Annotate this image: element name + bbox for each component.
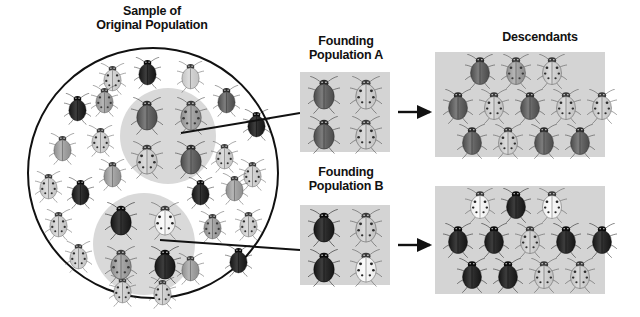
beetle-icon	[91, 85, 118, 117]
beetle-icon	[537, 54, 567, 89]
beetle-icon	[537, 188, 567, 223]
beetle-icon	[493, 258, 523, 293]
beetle-icon	[177, 61, 204, 93]
beetle-icon	[350, 76, 382, 114]
beetle-icon	[225, 245, 252, 277]
beetle-icon	[308, 249, 340, 287]
beetle-icon	[149, 202, 181, 240]
beetle-icon	[131, 141, 163, 179]
title-founding-population-a: Founding Population A	[296, 34, 396, 62]
beetle-icon	[350, 116, 382, 154]
beetle-icon	[199, 211, 226, 243]
beetle-icon	[465, 54, 495, 89]
beetle-icon	[64, 93, 91, 125]
beetle-icon	[529, 124, 559, 159]
page-title-original-population: Sample of Original Population	[62, 4, 242, 32]
beetle-icon	[479, 223, 509, 258]
beetle-icon	[565, 124, 595, 159]
founding-population-b-panel	[300, 205, 390, 285]
beetle-icon	[350, 209, 382, 247]
beetle-icon	[515, 89, 545, 124]
beetle-icon	[457, 124, 487, 159]
beetle-icon	[35, 171, 62, 203]
beetle-icon	[551, 89, 581, 124]
beetle-icon	[177, 253, 204, 285]
beetle-icon	[45, 209, 72, 241]
beetle-icon	[308, 76, 340, 114]
founding-population-a-panel	[300, 72, 390, 152]
beetle-icon	[175, 141, 207, 179]
beetle-icon	[501, 188, 531, 223]
beetle-icon	[65, 241, 92, 273]
descendants-a-panel	[435, 52, 605, 157]
beetle-icon	[67, 177, 94, 209]
beetle-icon	[457, 258, 487, 293]
beetle-icon	[308, 209, 340, 247]
beetle-icon	[443, 223, 473, 258]
beetle-icon	[49, 133, 76, 165]
beetle-icon	[308, 116, 340, 154]
beetle-icon	[565, 258, 595, 293]
title-founding-population-b: Founding Population B	[296, 165, 396, 193]
beetle-icon	[465, 188, 495, 223]
beetle-icon	[213, 85, 240, 117]
beetle-icon	[87, 125, 114, 157]
beetle-icon	[493, 124, 523, 159]
beetle-icon	[501, 54, 531, 89]
beetle-icon	[134, 57, 161, 89]
beetle-icon	[105, 202, 137, 240]
beetle-icon	[175, 97, 207, 135]
original-population-circle	[27, 47, 279, 299]
beetle-icon	[243, 109, 270, 141]
beetle-icon	[587, 223, 617, 258]
beetle-icon	[443, 89, 473, 124]
beetle-icon	[529, 258, 559, 293]
beetle-icon	[131, 97, 163, 135]
beetle-icon	[479, 89, 509, 124]
beetle-icon	[350, 249, 382, 287]
beetle-icon	[515, 223, 545, 258]
beetle-icon	[99, 159, 126, 191]
beetle-icon	[235, 209, 262, 241]
beetle-icon	[187, 177, 214, 209]
beetle-icon	[221, 173, 248, 205]
beetle-icon	[211, 141, 238, 173]
beetle-icon	[587, 89, 617, 124]
descendants-b-panel	[435, 186, 605, 294]
beetle-icon	[105, 246, 137, 284]
beetle-icon	[149, 246, 181, 284]
title-descendants: Descendants	[460, 30, 620, 44]
beetle-icon	[551, 223, 581, 258]
